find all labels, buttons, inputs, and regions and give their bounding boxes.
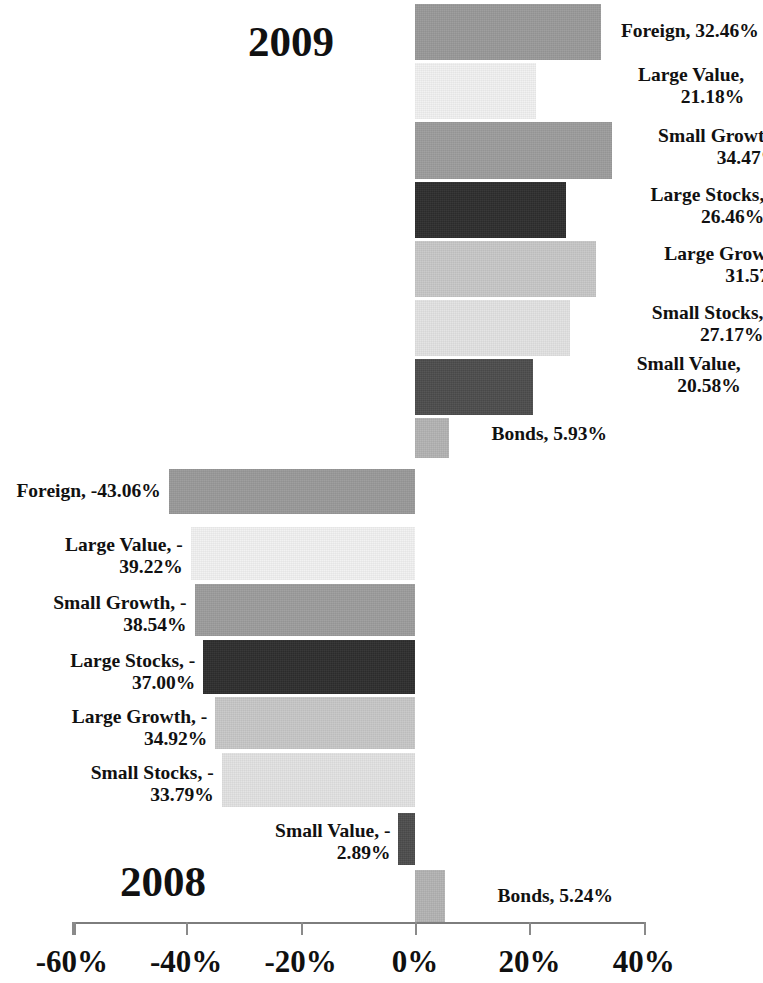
- bar-row: Small Value, 20.58%: [0, 359, 763, 415]
- bar-bonds-2009: [415, 418, 449, 458]
- axis-tick-neg20pct: [301, 922, 303, 935]
- bar-row: Small Growth, 34.47%: [0, 122, 763, 179]
- axis-tick-label-neg20pct: -20%: [264, 944, 336, 980]
- bar-row: Small Growth, - 38.54%: [0, 584, 763, 636]
- bar-row: Large Growth, 31.57%: [0, 241, 763, 297]
- bar-row: Small Stocks, - 33.79%: [0, 753, 763, 807]
- axis-line: [74, 922, 646, 924]
- bar-large-value-2009: [415, 63, 536, 119]
- bar-label-large-growth-2008: Large Growth, - 34.92%: [19, 706, 207, 750]
- bar-label-large-stocks-2008: Large Stocks, - 37.00%: [7, 650, 195, 694]
- axis-tick-0pct: [415, 922, 417, 935]
- bar-small-growth-2009: [415, 122, 612, 179]
- bar-small-stocks-2009: [415, 300, 570, 356]
- bar-chart: 2009 2008 Foreign, 32.46%Large Value, 21…: [0, 0, 763, 983]
- bar-row: Bonds, 5.93%: [0, 418, 763, 458]
- axis-tick-neg60pct: [72, 922, 74, 935]
- bar-label-small-growth-2008: Small Growth, - 38.54%: [0, 592, 187, 636]
- plot-area: Foreign, 32.46%Large Value, 21.18%Small …: [0, 0, 763, 925]
- bar-small-growth-2008: [195, 584, 415, 636]
- bar-row: Large Stocks, - 37.00%: [0, 640, 763, 694]
- bar-foreign-2009: [415, 4, 601, 60]
- bar-large-growth-2009: [415, 241, 596, 297]
- bar-row: Small Value, - 2.89%: [0, 813, 763, 865]
- bar-row: Large Value, - 39.22%: [0, 527, 763, 580]
- bar-label-small-value-2008: Small Value, - 2.89%: [190, 820, 390, 864]
- bar-large-stocks-2009: [415, 182, 566, 238]
- bar-label-large-value-2009: Large Value, 21.18%: [544, 64, 744, 108]
- bar-label-bonds-2008: Bonds, 5.24%: [453, 885, 613, 907]
- bar-small-stocks-2008: [222, 753, 415, 807]
- bar-label-bonds-2009: Bonds, 5.93%: [457, 423, 607, 445]
- bar-large-stocks-2008: [203, 640, 415, 694]
- bar-label-foreign-2009: Foreign, 32.46%: [609, 20, 759, 42]
- bar-label-large-value-2008: Large Value, - 39.22%: [8, 534, 183, 578]
- bar-small-value-2008: [398, 813, 415, 865]
- bar-bonds-2008: [415, 870, 445, 922]
- bar-label-small-stocks-2009: Small Stocks, 27.17%: [578, 302, 763, 346]
- axis-tick-neg40pct: [186, 922, 188, 935]
- bar-row: Bonds, 5.24%: [0, 870, 763, 922]
- bar-label-large-stocks-2009: Large Stocks, 26.46%: [574, 184, 763, 228]
- bar-small-value-2009: [415, 359, 533, 415]
- axis-tick-label-neg40pct: -40%: [150, 944, 222, 980]
- x-axis: -60%-40%-20%0%20%40%: [0, 922, 763, 983]
- axis-tick-label-20pct: 20%: [498, 944, 560, 980]
- bar-foreign-2008: [169, 469, 415, 514]
- axis-tick-20pct: [529, 922, 531, 935]
- bar-row: Small Stocks, 27.17%: [0, 300, 763, 356]
- bar-label-large-growth-2009: Large Growth, 31.57%: [604, 243, 763, 287]
- bar-row: Large Stocks, 26.46%: [0, 182, 763, 238]
- bar-label-small-value-2009: Small Value, 20.58%: [541, 353, 741, 397]
- axis-tick-label-40pct: 40%: [613, 944, 675, 980]
- axis-end-left: [74, 922, 76, 935]
- bar-row: Foreign, -43.06%: [0, 469, 763, 514]
- axis-tick-label-neg60pct: -60%: [36, 944, 108, 980]
- bar-large-growth-2008: [215, 697, 415, 749]
- bar-label-small-growth-2009: Small Growth, 34.47%: [620, 125, 763, 169]
- bar-label-foreign-2008: Foreign, -43.06%: [0, 480, 161, 502]
- axis-tick-label-0pct: 0%: [392, 944, 439, 980]
- bar-row: Large Value, 21.18%: [0, 63, 763, 119]
- bar-row: Large Growth, - 34.92%: [0, 697, 763, 749]
- bar-large-value-2008: [191, 527, 415, 580]
- bar-row: Foreign, 32.46%: [0, 4, 763, 60]
- bar-label-small-stocks-2008: Small Stocks, - 33.79%: [24, 762, 214, 806]
- axis-tick-40pct: [644, 922, 646, 935]
